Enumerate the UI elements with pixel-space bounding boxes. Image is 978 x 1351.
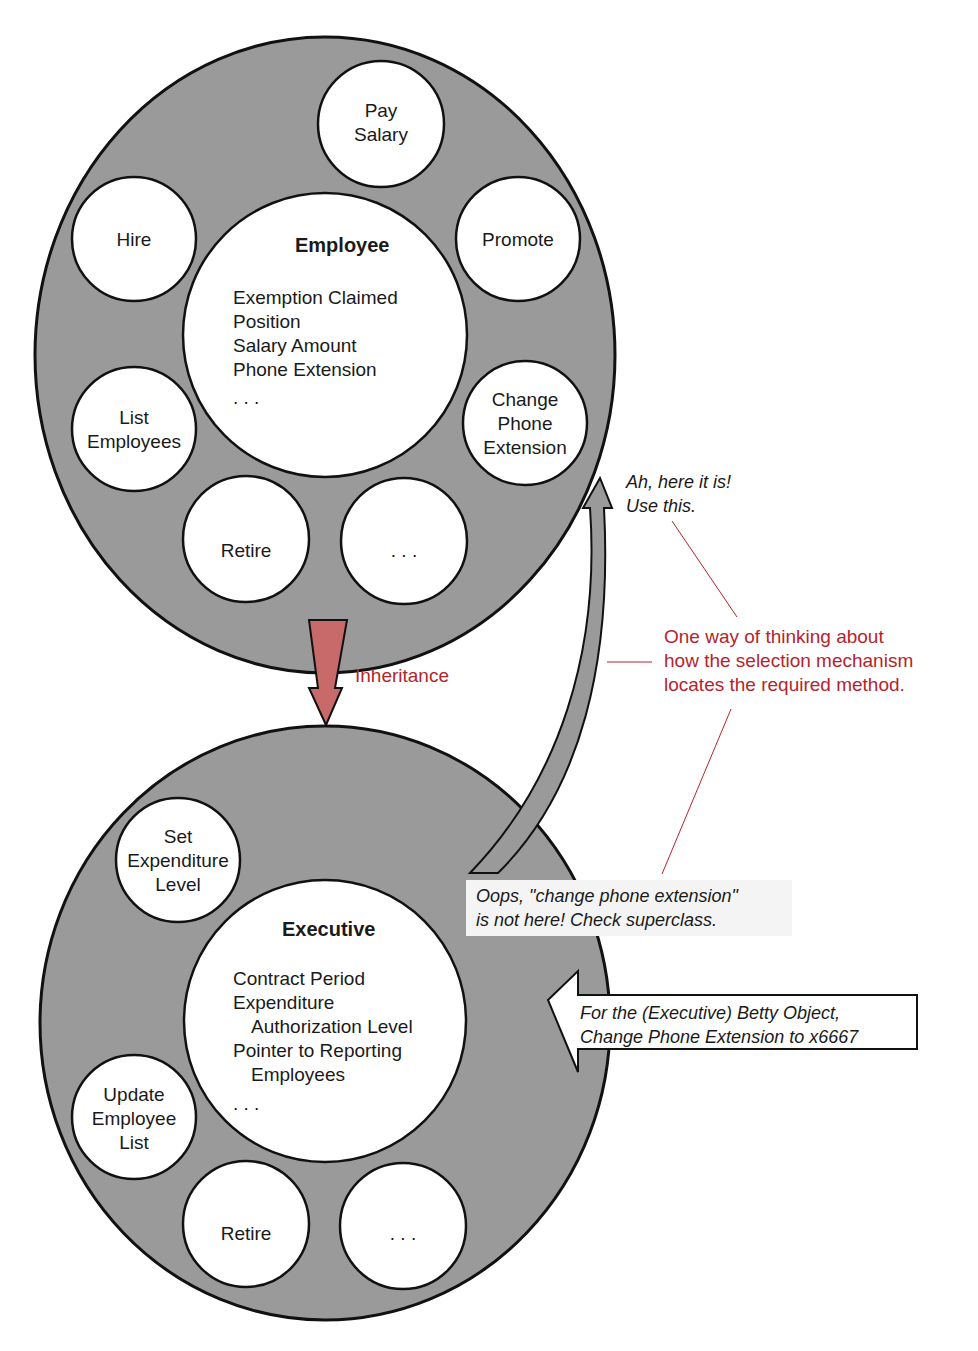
executive-title: Executive <box>282 918 375 940</box>
employee-attribute-more: . . . <box>233 387 259 408</box>
employee-object: Employee Exemption Claimed Position Sala… <box>35 37 615 673</box>
executive-attribute: Employees <box>251 1064 345 1085</box>
message-text: Change Phone Extension to x6667 <box>580 1027 859 1047</box>
svg-text:. . .: . . . <box>391 540 417 561</box>
found-note: Use this. <box>626 496 696 516</box>
not-here-note: Oops, "change phone extension" is not he… <box>466 880 792 936</box>
method-promote[interactable]: Promote <box>456 177 580 301</box>
svg-text:Employee: Employee <box>92 1108 177 1129</box>
svg-text:Employees: Employees <box>87 431 181 452</box>
method-more[interactable]: . . . <box>341 478 467 604</box>
method-change-phone-extension[interactable]: Change Phone Extension <box>463 361 587 485</box>
employee-attribute: Salary Amount <box>233 335 357 356</box>
svg-text:Retire: Retire <box>221 540 272 561</box>
svg-text:. . .: . . . <box>390 1223 416 1244</box>
svg-text:is not here! Check superclass: is not here! Check superclass. <box>476 910 717 930</box>
explanation-text: locates the required method. <box>664 674 905 695</box>
executive-attribute-more: . . . <box>233 1093 259 1114</box>
svg-text:List: List <box>119 1132 149 1153</box>
svg-text:Extension: Extension <box>483 437 566 458</box>
executive-attribute: Authorization Level <box>251 1016 413 1037</box>
employee-title: Employee <box>295 234 389 256</box>
callout-line <box>662 709 731 874</box>
svg-text:Promote: Promote <box>482 229 554 250</box>
svg-text:Expenditure: Expenditure <box>127 850 228 871</box>
svg-text:Oops, "change phone extension": Oops, "change phone extension" <box>476 886 740 906</box>
svg-text:Retire: Retire <box>221 1223 272 1244</box>
method-set-expenditure-level[interactable]: Set Expenditure Level <box>116 798 240 922</box>
explanation-text: One way of thinking about <box>664 626 884 647</box>
employee-attribute: Phone Extension <box>233 359 377 380</box>
employee-attribute: Position <box>233 311 301 332</box>
method-more-executive[interactable]: . . . <box>340 1163 466 1289</box>
explanation-text: how the selection mechanism <box>664 650 913 671</box>
method-hire[interactable]: Hire <box>72 177 196 301</box>
executive-attribute: Contract Period <box>233 968 365 989</box>
employee-attribute: Exemption Claimed <box>233 287 398 308</box>
inheritance-label: Inheritance <box>355 665 449 686</box>
svg-text:Update: Update <box>103 1084 164 1105</box>
method-retire[interactable]: Retire <box>183 476 309 602</box>
svg-text:Phone: Phone <box>498 413 553 434</box>
svg-text:List: List <box>119 407 149 428</box>
callout-line <box>672 521 737 617</box>
method-update-employee-list[interactable]: Update Employee List <box>72 1055 196 1179</box>
svg-text:Hire: Hire <box>117 229 152 250</box>
message-text: For the (Executive) Betty Object, <box>580 1003 840 1023</box>
method-list-employees[interactable]: List Employees <box>72 367 196 491</box>
inheritance-diagram: Employee Exemption Claimed Position Sala… <box>0 0 978 1351</box>
method-pay-salary[interactable]: Pay Salary <box>318 61 444 187</box>
method-retire-executive[interactable]: Retire <box>183 1161 309 1287</box>
executive-attribute: Expenditure <box>233 992 334 1013</box>
found-note: Ah, here it is! <box>625 472 731 492</box>
svg-text:Pay: Pay <box>365 100 398 121</box>
svg-text:Salary: Salary <box>354 124 408 145</box>
executive-attribute: Pointer to Reporting <box>233 1040 402 1061</box>
svg-text:Change: Change <box>492 389 559 410</box>
svg-text:Set: Set <box>164 826 193 847</box>
svg-text:Level: Level <box>155 874 200 895</box>
